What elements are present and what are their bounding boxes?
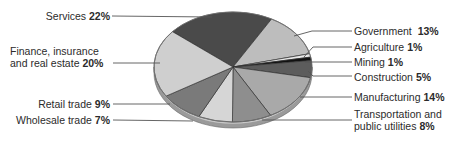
label-construction: Construction 5% <box>354 71 431 83</box>
label-finance: Finance, insurance and real estate 20% <box>10 45 103 69</box>
leader-agriculture <box>304 47 352 57</box>
label-government: Government 13% <box>354 25 439 37</box>
leader-construction <box>308 71 352 76</box>
leader-services <box>112 16 212 17</box>
label-wholesale: Wholesale trade 7% <box>10 114 110 126</box>
leader-government <box>294 31 352 36</box>
label-mining: Mining 1% <box>354 56 403 68</box>
label-transportation: Transportation and public utilities 8% <box>354 108 442 132</box>
label-services: Services 22% <box>12 10 110 22</box>
label-agriculture: Agriculture 1% <box>354 41 422 53</box>
leader-wholesale <box>113 120 193 121</box>
label-retail: Retail trade 9% <box>10 98 110 110</box>
label-manufacturing: Manufacturing 14% <box>354 91 444 103</box>
pie-slices <box>154 12 312 122</box>
